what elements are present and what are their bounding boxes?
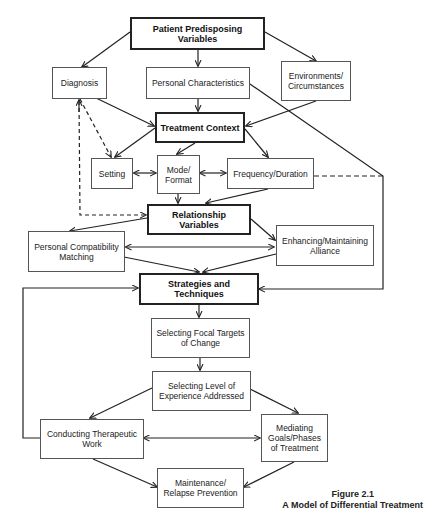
arrow-treatment-to-frequency: [245, 129, 268, 157]
arrow-level-to-mediating: [250, 389, 298, 413]
node-label: Treatment Context: [160, 123, 239, 133]
node-label: Personal Compatibility Matching: [31, 242, 122, 262]
node-personal-characteristics: Personal Characteristics: [146, 67, 250, 99]
node-label: Environments/ Circumstances: [284, 71, 348, 91]
node-diagnosis: Diagnosis: [52, 67, 107, 99]
arrow-patient-to-diagnosis: [82, 32, 130, 67]
figure-number: Figure 2.1: [282, 489, 423, 500]
node-label: Diagnosis: [61, 78, 98, 88]
arrow-compatibility-to-strategies: [124, 257, 199, 272]
node-label: Enhancing/Maintaining Alliance: [279, 236, 371, 256]
arrow-frequency-to-relationship: [206, 189, 268, 203]
node-selecting-focal-targets: Selecting Focal Targets of Change: [151, 318, 250, 358]
node-label: Selecting Focal Targets of Change: [154, 328, 247, 348]
node-label: Maintenance/ Relapse Prevention: [160, 478, 241, 498]
node-mediating-goals-phases: Mediating Goals/Phases of Treatment: [261, 414, 328, 462]
node-label: Personal Characteristics: [152, 78, 244, 88]
arrow-relationship-to-compatibility: [70, 218, 147, 231]
arrow-treatment-to-mode: [177, 143, 195, 154]
arrow-diagnosis-to-treatment-context: [96, 98, 154, 126]
arrow-mediating-to-maintenance: [244, 462, 294, 487]
node-frequency-duration: Frequency/Duration: [227, 158, 314, 189]
node-label: Patient Predisposing Variables: [134, 24, 261, 44]
node-treatment-context: Treatment Context: [155, 112, 245, 143]
arrow-relationship-to-alliance: [251, 219, 275, 240]
feedback-arrow-conducting-to-strategies: [23, 288, 138, 438]
node-enhancing-maintaining-alliance: Enhancing/Maintaining Alliance: [276, 225, 374, 266]
node-mode-format: Mode/ Format: [157, 155, 200, 194]
figure-title: A Model of Differential Treatment: [282, 500, 423, 511]
node-relationship-variables: Relationship Variables: [147, 204, 251, 235]
node-label: Setting: [99, 169, 125, 179]
figure-caption: Figure 2.1 A Model of Differential Treat…: [282, 489, 423, 511]
node-patient-predisposing-variables: Patient Predisposing Variables: [130, 17, 265, 50]
node-environments-circumstances: Environments/ Circumstances: [281, 61, 351, 101]
node-label: Mediating Goals/Phases of Treatment: [264, 423, 325, 453]
node-setting: Setting: [91, 158, 133, 189]
node-conducting-therapeutic-work: Conducting Therapeutic Work: [40, 419, 144, 459]
arrow-alliance-to-strategies: [203, 254, 276, 272]
node-label: Conducting Therapeutic Work: [43, 429, 141, 449]
arrow-patient-to-environments: [265, 32, 316, 61]
arrow-conducting-to-maintenance: [93, 459, 157, 487]
dashed-arrow-diagnosis-to-setting: [80, 99, 111, 157]
node-label: Selecting Level of Experience Addressed: [155, 381, 248, 401]
node-label: Strategies and Techniques: [143, 279, 255, 299]
node-maintenance-relapse-prevention: Maintenance/ Relapse Prevention: [157, 468, 244, 508]
arrow-level-to-conducting: [90, 388, 152, 418]
node-label: Mode/ Format: [160, 165, 197, 185]
node-personal-compatibility-matching: Personal Compatibility Matching: [28, 231, 125, 272]
node-strategies-and-techniques: Strategies and Techniques: [139, 273, 259, 305]
arrow-treatment-to-setting: [115, 128, 155, 157]
node-label: Frequency/Duration: [233, 169, 308, 179]
node-label: Relationship Variables: [151, 210, 247, 230]
node-selecting-level-of-experience: Selecting Level of Experience Addressed: [152, 371, 251, 411]
